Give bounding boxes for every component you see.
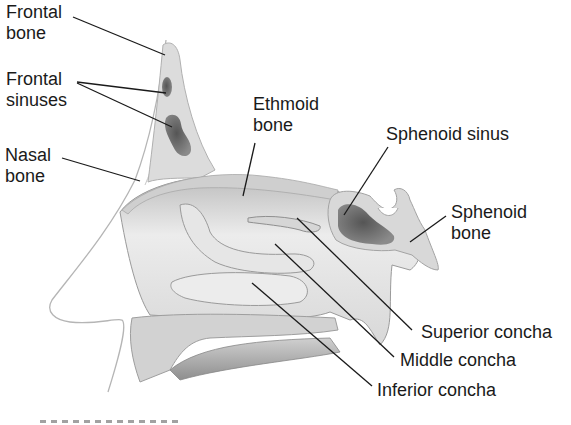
label-text: Middle concha bbox=[400, 350, 516, 371]
label-text: Inferior concha bbox=[377, 380, 496, 401]
label-text: bone bbox=[451, 223, 527, 244]
label-text: bone bbox=[6, 23, 62, 44]
label-text: Nasal bbox=[5, 145, 51, 166]
label-ethmoid-bone: Ethmoid bone bbox=[253, 94, 319, 136]
label-text: bone bbox=[253, 115, 319, 136]
label-text: Sphenoid bbox=[451, 202, 527, 223]
label-frontal-bone: Frontal bone bbox=[6, 2, 62, 44]
label-text: sinuses bbox=[6, 90, 67, 111]
label-text: bone bbox=[5, 166, 51, 187]
label-nasal-bone: Nasal bone bbox=[5, 145, 51, 187]
label-middle-concha: Middle concha bbox=[400, 350, 516, 371]
cropped-caption-fragment bbox=[40, 418, 180, 425]
label-sphenoid-sinus: Sphenoid sinus bbox=[386, 124, 509, 145]
label-inferior-concha: Inferior concha bbox=[377, 380, 496, 401]
leader-nasal-bone bbox=[62, 158, 140, 181]
label-text: Sphenoid sinus bbox=[386, 124, 509, 145]
frontal-bone-shape bbox=[148, 43, 215, 182]
frontal-sinus-upper bbox=[162, 77, 172, 97]
label-text: Frontal bbox=[6, 2, 62, 23]
label-superior-concha: Superior concha bbox=[421, 322, 552, 343]
label-text: Ethmoid bbox=[253, 94, 319, 115]
label-text: Frontal bbox=[6, 69, 67, 90]
leader-frontal-bone bbox=[73, 17, 165, 55]
label-text: Superior concha bbox=[421, 322, 552, 343]
leader-frontal-sinus-1 bbox=[77, 82, 166, 93]
label-frontal-sinuses: Frontal sinuses bbox=[6, 69, 67, 111]
nasal-cavity-diagram: Frontal bone Frontal sinuses Nasal bone … bbox=[0, 0, 571, 425]
label-sphenoid-bone: Sphenoid bone bbox=[451, 202, 527, 244]
